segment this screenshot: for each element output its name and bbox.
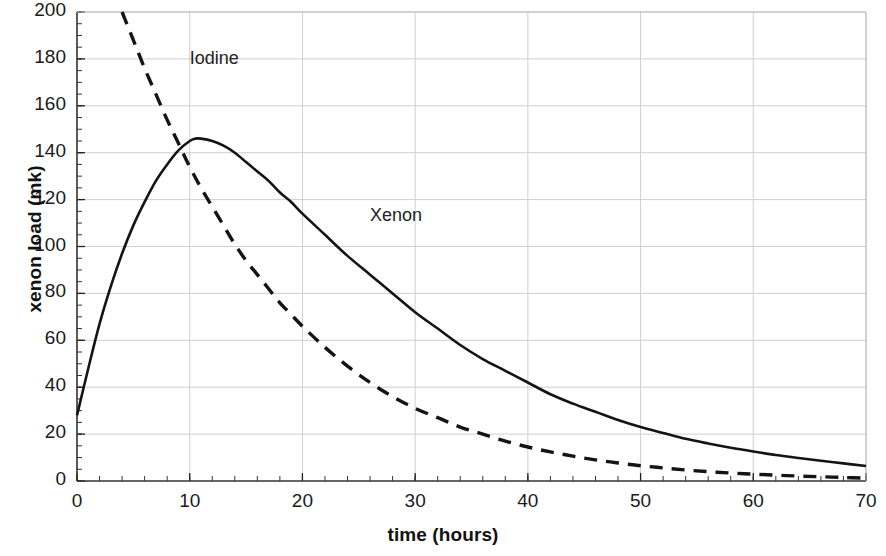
x-axis-title: time (hours) bbox=[0, 524, 886, 546]
x-tick-label: 10 bbox=[160, 490, 220, 512]
xenon-iodine-chart-figure: 020406080100120140160180200 010203040506… bbox=[0, 0, 886, 556]
series-curve-xenon bbox=[77, 138, 866, 466]
chart-plot-area bbox=[0, 0, 886, 556]
gridlines bbox=[77, 12, 866, 481]
y-tick-label: 0 bbox=[4, 468, 66, 490]
x-tick-label: 60 bbox=[723, 490, 783, 512]
x-tick-label: 30 bbox=[385, 490, 445, 512]
x-tick-label: 40 bbox=[498, 490, 558, 512]
y-tick-label: 200 bbox=[4, 0, 66, 21]
x-tick-label: 70 bbox=[836, 490, 886, 512]
series-label-iodine: Iodine bbox=[190, 48, 239, 69]
x-tick-label: 20 bbox=[272, 490, 332, 512]
x-tick-label: 50 bbox=[611, 490, 671, 512]
y-axis-title: xenon load (mk) bbox=[24, 39, 46, 439]
series-curves bbox=[77, 12, 866, 478]
series-curve-iodine bbox=[122, 12, 866, 478]
x-tick-label: 0 bbox=[47, 490, 107, 512]
series-label-xenon: Xenon bbox=[370, 205, 422, 226]
